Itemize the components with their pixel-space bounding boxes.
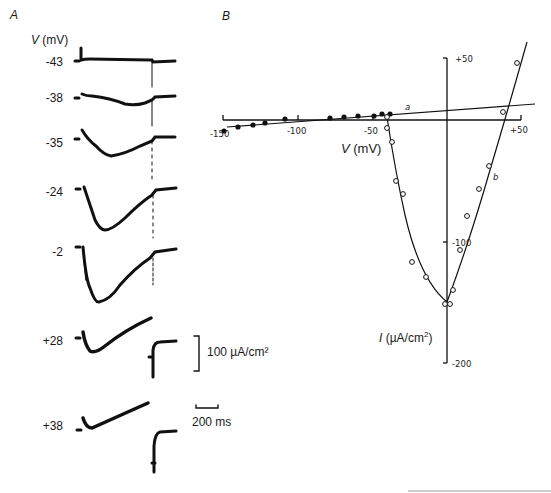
- curve-label-a: a: [405, 102, 410, 112]
- curve-b-right: [447, 42, 527, 302]
- x-tick-label: -100: [287, 126, 306, 136]
- figure-canvas: -150 -100 -50 +50 +50 -100 -200 a b: [0, 0, 551, 493]
- peak-current-data-points: [385, 61, 520, 307]
- panel-b-axes: [223, 58, 521, 363]
- x-tick-label: -50: [364, 126, 378, 136]
- panel-b-fits: [227, 42, 535, 302]
- y-tick-label: -200: [452, 359, 471, 369]
- curve-label-b: b: [493, 172, 498, 182]
- panel-b-tick-labels: -150 -100 -50 +50 +50 -100 -200 a b: [210, 54, 528, 369]
- y-tick-label: +50: [455, 54, 473, 64]
- curve-b-left: [387, 117, 447, 302]
- x-tick-label: +50: [510, 125, 528, 135]
- panel-a-traces: [75, 48, 218, 472]
